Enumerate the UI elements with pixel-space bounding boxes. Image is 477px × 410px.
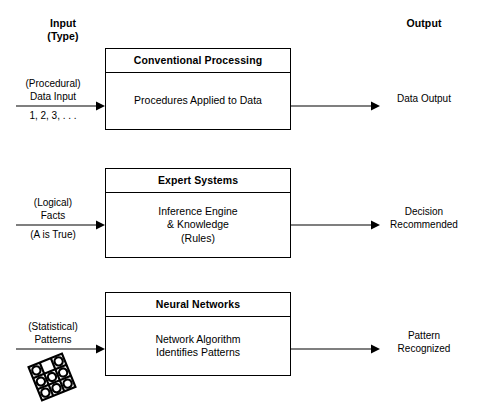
column-header-output: Output [374,17,474,30]
process-box-conventional-processing: Conventional Processing Procedures Appli… [105,48,291,130]
process-box-neural-networks: Neural Networks Network Algorithm Identi… [105,292,291,376]
column-header-input: Input (Type) [18,17,108,42]
process-box-title-neural-networks: Neural Networks [106,293,290,317]
process-box-title-conventional-processing: Conventional Processing [106,49,290,73]
arrow-right-icon-input-conventional [16,100,106,112]
process-box-body-neural-networks: Network Algorithm Identifies Patterns [106,317,290,375]
arrow-right-icon-output-neural-networks [291,343,381,355]
process-box-expert-systems: Expert Systems Inference Engine & Knowle… [105,168,291,258]
arrow-right-icon-output-conventional [291,100,381,112]
output-label-pattern-recognized: Pattern Recognized [372,330,476,355]
process-box-body-expert-systems: Inference Engine & Knowledge (Rules) [106,193,290,257]
output-label-data-output: Data Output [372,93,476,106]
process-box-body-conventional-processing: Procedures Applied to Data [106,73,290,129]
process-box-title-expert-systems: Expert Systems [106,169,290,193]
rotated-grid-pattern-icon [27,351,77,403]
ai-paradigms-comparison-diagram: Input (Type) Output (Procedural) Data In… [0,0,477,410]
arrow-right-icon-input-expert-systems [16,219,106,231]
arrow-right-icon-output-expert-systems [291,219,381,231]
output-label-decision-recommended: Decision Recommended [372,206,476,231]
